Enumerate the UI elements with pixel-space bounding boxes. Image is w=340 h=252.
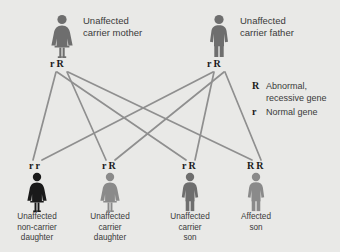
caption-child2-line2: carrier — [70, 223, 150, 234]
label-mother-line2: carrier mother — [83, 27, 142, 39]
allele-child4-2: R — [256, 160, 265, 171]
caption-child-4: Affected son — [216, 212, 296, 233]
line-father-R-to-child2 — [115, 72, 224, 160]
caption-child-2: Unaffected carrier daughter — [70, 212, 150, 244]
female-figure-icon — [48, 14, 76, 56]
node-child-2 — [96, 172, 124, 214]
legend-key-R: R — [252, 80, 259, 91]
male-figure-icon — [205, 14, 233, 56]
node-child-1 — [23, 172, 51, 214]
line-mother-r-to-child1 — [33, 72, 56, 160]
label-father-line1: Unaffected — [240, 15, 294, 27]
legend-text-R-line1: Abnormal, — [266, 80, 340, 92]
allele-mother-2: R — [56, 58, 65, 69]
pedigree-diagram: rR Unaffected carrier mother rR Unaffect… — [0, 0, 340, 252]
legend-key-r: r — [252, 106, 256, 117]
node-child-3 — [176, 172, 204, 214]
legend-item-r: r Normal gene — [252, 106, 340, 118]
caption-child2-line1: Unaffected — [70, 212, 150, 223]
label-father-line2: carrier father — [240, 27, 294, 39]
line-mother-r-to-child3 — [57, 72, 186, 160]
caption-child4-line2: son — [216, 223, 296, 234]
label-mother-line1: Unaffected — [83, 15, 142, 27]
female-figure-icon — [23, 172, 51, 214]
legend-item-R: R Abnormal, recessive gene — [252, 80, 340, 104]
node-father — [205, 14, 233, 56]
caption-child4-line1: Affected — [216, 212, 296, 223]
caption-child3-line3: son — [150, 233, 230, 244]
caption-child1-line2: non-carrier — [0, 223, 77, 234]
legend: R Abnormal, recessive gene r Normal gene — [252, 80, 340, 118]
legend-text-r-line1: Normal gene — [266, 106, 340, 118]
caption-child1-line1: Unaffected — [0, 212, 77, 223]
female-figure-icon — [96, 172, 124, 214]
genotype-child-1: rr — [29, 160, 42, 171]
genotype-child-2: rR — [102, 160, 118, 171]
caption-child1-line3: daughter — [0, 233, 77, 244]
caption-child-1: Unaffected non-carrier daughter — [0, 212, 77, 244]
node-mother — [48, 14, 76, 56]
genotype-mother: rR — [50, 58, 66, 69]
genotype-child-4: RR — [247, 160, 265, 171]
line-father-r-to-child3 — [195, 72, 214, 160]
allele-child2-2: R — [108, 160, 117, 171]
allele-child1-2: r — [35, 160, 41, 171]
allele-child3-2: R — [188, 160, 197, 171]
label-father: Unaffected carrier father — [240, 15, 294, 38]
allele-child4-1: R — [247, 160, 256, 171]
allele-father-2: R — [213, 58, 222, 69]
genotype-father: rR — [207, 58, 223, 69]
male-figure-icon — [242, 172, 270, 214]
label-mother: Unaffected carrier mother — [83, 15, 142, 38]
line-mother-R-to-child2 — [67, 72, 106, 160]
legend-text-R-line2: recessive gene — [266, 92, 340, 104]
line-mother-R-to-child4 — [68, 72, 252, 160]
line-father-r-to-child1 — [42, 72, 213, 160]
node-child-4 — [242, 172, 270, 214]
male-figure-icon — [176, 172, 204, 214]
caption-child2-line3: daughter — [70, 233, 150, 244]
genotype-child-3: rR — [182, 160, 198, 171]
